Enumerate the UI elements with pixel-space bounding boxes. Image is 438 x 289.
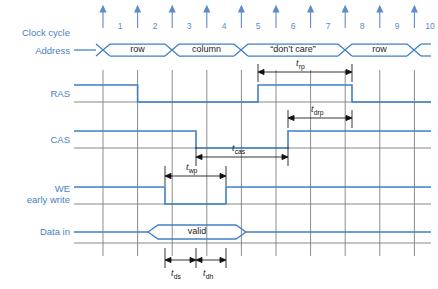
clock-cycle-3: 3 (181, 21, 197, 31)
clock-arrow (100, 6, 105, 28)
address-segment-row-2: row (352, 44, 407, 54)
cas-signal (74, 131, 431, 148)
timing-label-twp: twp (186, 162, 197, 174)
clock-cycle-7: 7 (320, 21, 336, 31)
row-label-we-sub: early write (0, 194, 70, 205)
clock-cycle-2: 2 (147, 21, 163, 31)
row-label-address: Address (0, 45, 70, 56)
clock-arrow (343, 6, 348, 28)
clock-cycle-5: 5 (250, 21, 266, 31)
timing-label-trp: trp (296, 58, 305, 70)
timing-label-tds-sub: ds (174, 273, 181, 280)
clock-cycle-9: 9 (389, 21, 405, 31)
data-in-segment-valid: valid (158, 226, 236, 236)
clock-arrow (239, 6, 244, 28)
timing-marker-tds-tdh (165, 248, 226, 268)
timing-label-tdrp-sub: drp (314, 109, 324, 116)
clock-arrow (135, 6, 140, 28)
row-label-clock-cycle: Clock cycle (0, 27, 70, 38)
clock-cycle-8: 8 (354, 21, 370, 31)
timing-label-tdrp: tdrp (311, 104, 323, 116)
data-in-waveform (74, 225, 431, 239)
row-label-we: WE (0, 183, 70, 194)
address-segment-row-1: row (110, 44, 165, 54)
clock-arrow (204, 6, 209, 28)
timing-label-tcas-sub: cas (235, 148, 246, 155)
clock-cycle-6: 6 (285, 21, 301, 31)
address-segment-dont-care: “don’t care” (248, 44, 338, 54)
clock-arrow (273, 6, 278, 28)
timing-label-twp-sub: wp (189, 167, 198, 174)
timing-label-trp-sub: rp (299, 63, 305, 70)
clock-cycle-1: 1 (112, 21, 128, 31)
clock-arrow (170, 6, 175, 28)
clock-cycle-4: 4 (216, 21, 232, 31)
clock-arrow (412, 6, 417, 28)
address-segment-column: column (179, 44, 234, 54)
ras-signal (74, 85, 431, 102)
timing-label-tds: tds (171, 268, 181, 280)
clock-cycle-10: 10 (422, 21, 438, 31)
timing-label-tdh: tdh (203, 268, 213, 280)
clock-arrow (377, 6, 382, 28)
timing-marker-trp (258, 64, 352, 82)
clock-arrow (308, 6, 313, 28)
row-label-ras: RAS (0, 88, 70, 99)
row-label-cas: CAS (0, 134, 70, 145)
timing-label-tdh-sub: dh (206, 273, 214, 280)
we-signal (74, 187, 431, 204)
row-label-data-in: Data in (0, 226, 70, 237)
timing-label-tcas: tcas (232, 143, 245, 155)
